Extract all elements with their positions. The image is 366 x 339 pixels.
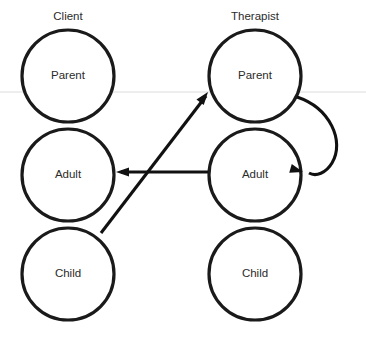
therapist-parent-label: Parent [238,69,273,81]
therapist-column-label: Therapist [231,10,280,22]
client-parent-node[interactable]: Parent [22,30,114,122]
client-column: Client Parent Adult Child [22,10,114,320]
therapist-adult-node[interactable]: Adult [209,129,301,221]
diagonal-arrow-line[interactable] [101,96,206,233]
therapist-child-node[interactable]: Child [209,228,301,320]
therapist-column: Therapist Parent Adult Child [209,10,301,320]
client-parent-label: Parent [51,69,86,81]
therapist-parent-node[interactable]: Parent [209,30,301,122]
client-child-label: Child [55,267,81,279]
horizontal-arrowhead [116,167,129,176]
therapist-adult-label: Adult [242,168,269,180]
ego-state-diagram-svg: Client Parent Adult Child Therapist Pare… [0,0,366,339]
diagram-canvas: Client Parent Adult Child Therapist Pare… [0,0,366,339]
client-adult-node[interactable]: Adult [22,129,114,221]
client-column-label: Client [53,10,83,22]
client-adult-label: Adult [55,168,82,180]
client-child-node[interactable]: Child [22,228,114,320]
curved-loop-arrow-line[interactable] [297,97,337,175]
therapist-adult-to-client-adult-arrow[interactable] [116,167,208,176]
client-child-to-therapist-parent-arrow[interactable] [101,89,212,233]
therapist-child-label: Child [242,267,268,279]
